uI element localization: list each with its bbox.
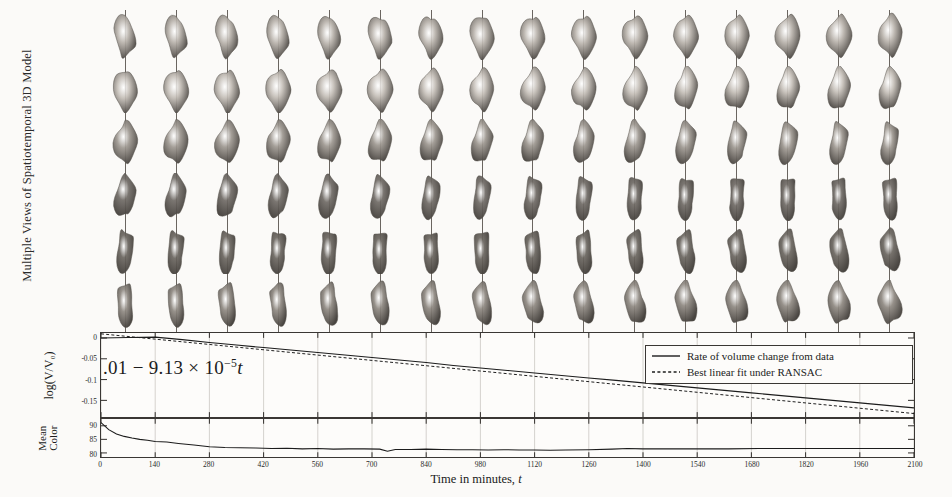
- model-cell: [307, 10, 351, 64]
- model-render-view-side: [465, 119, 499, 167]
- x-tick-label: 840: [420, 460, 431, 469]
- model-cell: [664, 64, 708, 118]
- x-tick-label: 1260: [582, 460, 597, 469]
- model-render-view-front: [210, 12, 244, 60]
- equation-base: 10: [204, 357, 224, 378]
- model-cell: [562, 225, 606, 279]
- model-cell: [511, 278, 555, 332]
- legend-entry: Rate of volume change from data: [651, 348, 907, 364]
- model-render-view-top: [567, 280, 601, 328]
- x-tick-label: 980: [475, 460, 486, 469]
- model-render-view-front-tilt: [567, 66, 601, 114]
- y-tick-label: -0.1: [85, 375, 100, 384]
- model-render-view-rear: [873, 173, 907, 221]
- equation-coefficient: 9.13: [149, 357, 183, 378]
- model-row-5: [100, 225, 915, 279]
- x-tick-label: 1680: [745, 460, 760, 469]
- legend-key-solid-line-icon: [651, 351, 681, 361]
- model-render-view-front-tilt: [465, 66, 499, 114]
- legend: Rate of volume change from dataBest line…: [645, 345, 913, 384]
- model-render-view-rear-tilt: [567, 227, 601, 275]
- model-render-view-front: [720, 12, 754, 60]
- model-render-view-rear-tilt: [516, 227, 550, 275]
- model-cell: [562, 117, 606, 171]
- model-cell: [256, 171, 300, 225]
- model-cell: [409, 278, 453, 332]
- model-cell: [715, 225, 759, 279]
- model-row-6: [100, 278, 915, 332]
- x-tick-label: 1400: [636, 460, 651, 469]
- model-grid: [100, 10, 915, 332]
- model-render-view-front: [567, 12, 601, 60]
- model-render-view-front: [414, 12, 448, 60]
- model-cell: [817, 64, 861, 118]
- model-cell: [154, 117, 198, 171]
- model-render-view-top: [312, 280, 346, 328]
- model-render-view-front: [822, 12, 856, 60]
- model-render-view-rear: [210, 173, 244, 221]
- model-render-view-side: [108, 119, 142, 167]
- model-render-view-rear-tilt: [771, 227, 805, 275]
- model-cell: [460, 171, 504, 225]
- model-cell: [103, 10, 147, 64]
- model-row-1: [100, 10, 915, 64]
- color-y-ticks: 908580: [62, 418, 100, 458]
- figure-root: Multiple Views of Spatiotemporal 3D Mode…: [0, 0, 952, 497]
- model-render-view-top: [414, 280, 448, 328]
- x-tick-label: 1960: [853, 460, 868, 469]
- model-cell: [817, 171, 861, 225]
- model-cell: [307, 64, 351, 118]
- model-cell: [868, 171, 912, 225]
- model-cell: [205, 171, 249, 225]
- model-cell: [664, 171, 708, 225]
- model-render-view-rear: [465, 173, 499, 221]
- model-cell: [256, 278, 300, 332]
- model-cell: [409, 225, 453, 279]
- model-render-view-rear-tilt: [618, 227, 652, 275]
- y-tick-label: 80: [90, 449, 101, 458]
- legend-label: Rate of volume change from data: [681, 350, 834, 362]
- model-cell: [358, 225, 402, 279]
- model-render-view-front: [465, 12, 499, 60]
- model-row-4: [100, 171, 915, 225]
- model-render-view-top: [618, 280, 652, 328]
- model-render-view-rear: [567, 173, 601, 221]
- model-render-view-front: [312, 12, 346, 60]
- model-render-view-rear: [771, 173, 805, 221]
- x-tick-label: 1120: [527, 460, 542, 469]
- model-cell: [103, 278, 147, 332]
- model-render-view-side: [159, 119, 193, 167]
- model-render-view-front: [669, 12, 703, 60]
- volume-axis-title: log(V/V₀): [36, 332, 62, 418]
- model-render-view-front-tilt: [414, 66, 448, 114]
- model-cell: [562, 10, 606, 64]
- volume-y-ticks: 0-0.05-0.1-0.15: [62, 332, 100, 418]
- model-cell: [766, 10, 810, 64]
- model-render-view-front-tilt: [363, 66, 397, 114]
- model-cell: [103, 64, 147, 118]
- model-render-view-side: [312, 119, 346, 167]
- model-cell: [358, 171, 402, 225]
- model-render-view-top: [159, 280, 193, 328]
- model-cell: [358, 278, 402, 332]
- model-cell: [409, 10, 453, 64]
- model-render-view-side: [771, 119, 805, 167]
- equation-exponent: −5: [224, 357, 237, 370]
- model-render-view-rear-tilt: [261, 227, 295, 275]
- model-render-view-side: [669, 119, 703, 167]
- model-cell: [103, 171, 147, 225]
- model-render-view-rear: [414, 173, 448, 221]
- model-render-view-rear: [363, 173, 397, 221]
- color-axis-title: MeanColor: [36, 418, 62, 458]
- model-render-view-top: [108, 280, 142, 328]
- model-cell: [511, 171, 555, 225]
- model-render-view-rear: [822, 173, 856, 221]
- model-render-view-front: [618, 12, 652, 60]
- x-tick-label: 280: [203, 460, 214, 469]
- model-render-view-rear: [618, 173, 652, 221]
- model-cell: [664, 278, 708, 332]
- model-render-view-front-tilt: [720, 66, 754, 114]
- model-cell: [613, 117, 657, 171]
- model-render-view-rear-tilt: [108, 227, 142, 275]
- y-tick-label: 0: [93, 333, 100, 342]
